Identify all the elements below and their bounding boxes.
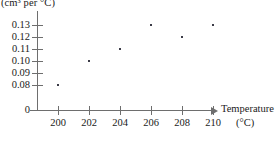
data-point [57,84,60,87]
x-axis-tick-label: 206 [134,117,168,128]
y-axis-title: (cm³ per °C) [1,0,55,8]
y-axis-tick [32,73,43,74]
data-point [150,24,153,27]
x-axis-tick-label: 208 [165,117,199,128]
y-axis-tick [32,25,43,26]
x-axis-tick-label: 210 [196,117,230,128]
x-axis-title: Temperature [221,103,274,115]
data-point [119,48,122,51]
x-axis-tick [213,106,214,115]
y-axis-tick-label: 0.11 [0,44,30,55]
x-axis-tick [89,106,90,115]
data-point [212,24,215,27]
y-axis-tick-label: 0 [0,105,30,116]
data-point [181,36,184,39]
y-axis-tick [32,110,43,111]
y-axis-tick [32,37,43,38]
x-axis-units: (°C) [236,117,254,128]
x-axis-tick [182,106,183,115]
y-axis-tick [32,49,43,50]
scatter-chart: (cm³ per °C) 0.130.120.110.100.090.080 2… [0,0,275,141]
x-axis-tick-label: 204 [103,117,137,128]
x-axis-tick [151,106,152,115]
y-axis-tick-label: 0.08 [0,80,30,91]
y-axis-tick-label: 0.09 [0,68,30,79]
x-axis-tick [120,106,121,115]
y-axis-tick-label: 0.10 [0,56,30,67]
y-axis-tick [32,61,43,62]
x-axis-tick [58,106,59,115]
y-axis-tick-label: 0.13 [0,20,30,31]
y-axis-tick [32,85,43,86]
x-axis-tick-label: 200 [41,117,75,128]
data-point [88,60,91,63]
y-axis-tick-label: 0.12 [0,32,30,43]
x-axis-tick-label: 202 [72,117,106,128]
